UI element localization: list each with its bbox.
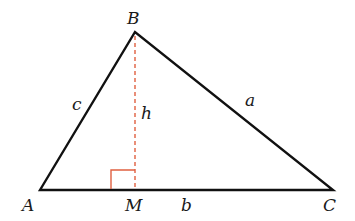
side-label-c: c <box>72 96 82 113</box>
vertex-label-a: A <box>22 197 34 214</box>
triangle-diagram <box>0 0 355 221</box>
foot-label-m: M <box>125 197 142 214</box>
side-label-a: a <box>245 92 255 109</box>
right-angle-marker <box>111 170 135 189</box>
altitude-label-h: h <box>141 105 152 122</box>
side-label-b: b <box>181 197 192 214</box>
vertex-label-b: B <box>127 10 140 27</box>
triangle-abc <box>40 32 333 190</box>
vertex-label-c: C <box>323 197 336 214</box>
